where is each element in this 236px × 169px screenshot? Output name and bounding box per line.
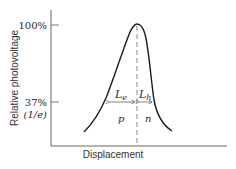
- y-axis-label: Relative photovoltage: [9, 29, 20, 126]
- lh-label: Lh: [138, 88, 151, 102]
- region-label-n: n: [145, 113, 151, 124]
- photovoltage-diagram: 100% 37% (1/e) Relative photovoltage Dis…: [0, 0, 236, 169]
- tick-label-100: 100%: [18, 20, 47, 31]
- region-label-p: p: [118, 113, 125, 124]
- tick-label-37: 37%: [25, 97, 47, 108]
- photovoltage-curve: [84, 24, 172, 132]
- tick-label-1e: (1/e): [24, 109, 48, 120]
- x-axis-label: Displacement: [83, 149, 144, 160]
- le-label: Le: [114, 88, 127, 102]
